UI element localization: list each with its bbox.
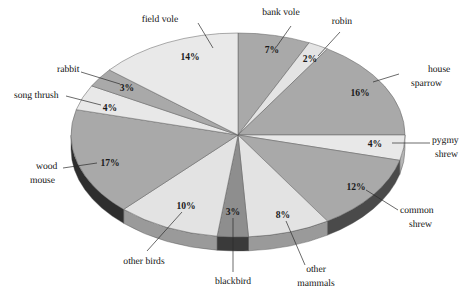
label-bank-vole: bank vole	[262, 7, 300, 18]
label-other-mammals-line2: mammals	[297, 278, 335, 289]
label-house-sparrow-line1: house	[428, 64, 450, 75]
label-common-shrew-line2: shrew	[409, 219, 432, 230]
label-wood-mouse-line1: wood	[36, 161, 58, 172]
label-rabbit: rabbit	[57, 64, 80, 75]
leader-line-house-sparrow	[373, 74, 399, 82]
label-other-mammals-line1: other	[306, 264, 327, 275]
label-other-birds: other birds	[123, 256, 165, 267]
label-pygmy-shrew-line2: shrew	[435, 149, 458, 160]
percent-house-sparrow: 16%	[350, 87, 369, 98]
pie-chart-figure: bank vole 7%robin 2%house sparrow 16%pyg…	[0, 0, 472, 298]
percent-other-birds: 10%	[176, 200, 195, 211]
percent-pygmy-shrew: 4%	[368, 138, 382, 149]
label-song-thrush: song thrush	[14, 90, 59, 101]
percent-field-vole: 14%	[180, 51, 199, 62]
percent-song-thrush: 4%	[103, 102, 117, 113]
percent-bank-vole: 7%	[265, 44, 279, 55]
percent-common-shrew: 12%	[346, 181, 365, 192]
label-common-shrew-line1: common	[400, 205, 434, 216]
label-blackbird: blackbird	[215, 276, 251, 287]
percent-robin: 2%	[303, 53, 317, 64]
percent-wood-mouse: 17%	[100, 157, 119, 168]
pie-chart-canvas: bank vole 7%robin 2%house sparrow 16%pyg…	[0, 0, 472, 298]
percent-other-mammals: 8%	[276, 209, 290, 220]
percent-rabbit: 3%	[120, 82, 134, 93]
label-field-vole: field vole	[142, 14, 179, 25]
label-house-sparrow-line2: sparrow	[411, 78, 442, 89]
percent-blackbird: 3%	[226, 206, 240, 217]
label-wood-mouse-line2: mouse	[30, 175, 55, 186]
label-robin: robin	[332, 16, 352, 27]
label-pygmy-shrew-line1: pygmy	[432, 135, 459, 146]
